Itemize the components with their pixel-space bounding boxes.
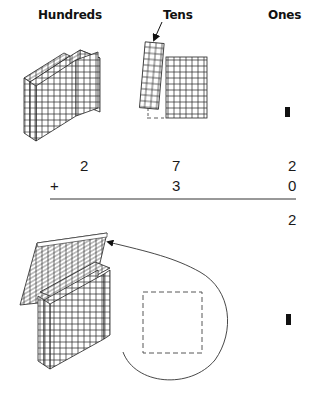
ones-unit-top [285, 107, 290, 117]
tens-rods-top [139, 22, 207, 118]
hundreds-flats-top [24, 50, 100, 141]
ones-unit-bottom [286, 314, 291, 325]
addend1-tens: 7 [172, 157, 180, 174]
empty-tens-placeholder [143, 292, 202, 353]
partial-sum-ones: 2 [288, 211, 296, 228]
hundreds-flats-bottom [20, 233, 110, 369]
addend2-tens: 3 [172, 177, 180, 194]
addend1-hundreds: 2 [80, 157, 88, 174]
operator-plus: + [50, 177, 59, 194]
regroup-arrow [108, 242, 228, 380]
base-ten-diagram [0, 0, 315, 399]
addend1-ones: 2 [288, 157, 296, 174]
addend2-ones: 0 [288, 177, 296, 194]
